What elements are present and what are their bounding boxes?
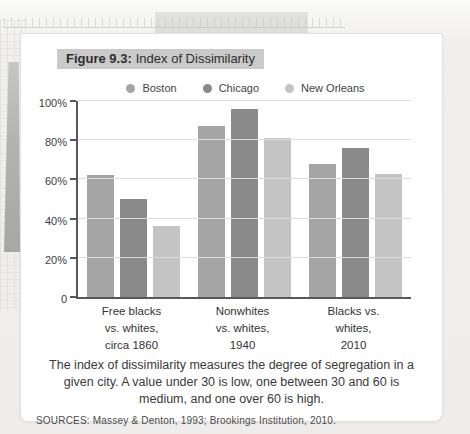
page: Figure 9.3:Index of Dissimilarity Boston… <box>0 0 470 434</box>
bar-group <box>87 175 180 297</box>
bar-boston <box>309 164 336 297</box>
sources-note: SOURCES: Massey & Denton, 1993; Brooking… <box>36 415 442 426</box>
gridline <box>78 257 411 258</box>
bar-chicago <box>231 109 258 297</box>
legend-item-chicago: Chicago <box>203 82 259 94</box>
figure-caption: The index of dissimilarity measures the … <box>46 357 418 408</box>
figure-number-label: Figure 9.3: <box>66 51 132 66</box>
y-tick-mark <box>70 296 76 298</box>
y-tick-label: 100% <box>39 97 67 109</box>
y-tick-label: 0 <box>61 293 67 305</box>
y-tick-label: 60% <box>45 175 67 187</box>
figure-title: Figure 9.3:Index of Dissimilarity <box>57 49 264 69</box>
y-tick-mark <box>70 218 76 220</box>
y-axis: 100%80%60%40%20%0 <box>36 101 76 299</box>
legend-label-boston: Boston <box>142 82 176 94</box>
y-tick-label: 40% <box>45 215 67 227</box>
gridline <box>78 178 411 179</box>
bar-group <box>198 109 291 297</box>
bar-new-orleans <box>375 174 402 297</box>
legend-item-boston: Boston <box>126 82 176 94</box>
bar-new-orleans <box>153 226 180 297</box>
bar-chart: 100%80%60%40%20%0 <box>21 101 442 299</box>
legend-swatch-boston-icon <box>126 84 135 93</box>
bar-boston <box>87 175 114 297</box>
y-tick-label: 20% <box>45 254 67 266</box>
gridline <box>78 139 411 140</box>
legend-label-new-orleans: New Orleans <box>301 82 365 94</box>
y-tick-mark <box>70 257 76 259</box>
figure-card: Figure 9.3:Index of Dissimilarity Boston… <box>20 33 443 422</box>
tape-decoration <box>155 12 308 34</box>
y-tick-label: 80% <box>45 136 67 148</box>
plot-area <box>76 101 411 299</box>
bar-group <box>309 148 402 297</box>
bar-chicago <box>342 148 369 297</box>
legend-label-chicago: Chicago <box>219 82 259 94</box>
x-category-label: Blacks vs.whites,2010 <box>298 303 409 354</box>
legend-swatch-new-orleans-icon <box>285 84 294 93</box>
bars-row <box>78 101 411 297</box>
legend-item-new-orleans: New Orleans <box>285 82 365 94</box>
chart-legend: Boston Chicago New Orleans <box>49 81 442 95</box>
legend-swatch-chicago-icon <box>203 84 212 93</box>
y-tick-mark <box>70 100 76 102</box>
figure-title-text: Index of Dissimilarity <box>136 51 255 66</box>
x-axis-labels: Free blacksvs. whites,circa 1860Nonwhite… <box>76 303 409 354</box>
bar-chicago <box>120 199 147 297</box>
y-tick-mark <box>70 139 76 141</box>
x-category-label: Free blacksvs. whites,circa 1860 <box>76 303 187 354</box>
gridline <box>78 218 411 219</box>
bar-boston <box>198 126 225 297</box>
x-category-label: Nonwhitesvs. whites,1940 <box>187 303 298 354</box>
gridline <box>78 100 411 101</box>
y-tick-mark <box>70 178 76 180</box>
